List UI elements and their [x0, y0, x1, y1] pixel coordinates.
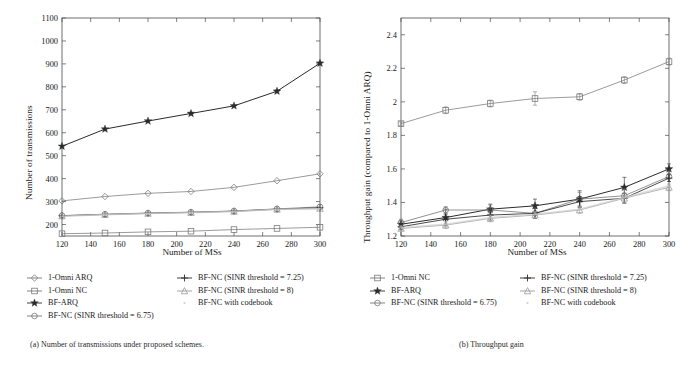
svg-text:2.2: 2.2	[387, 64, 397, 73]
legend-label: BF-NC (SINR threshold = 8)	[541, 285, 637, 298]
svg-text:300: 300	[45, 198, 58, 207]
caption-b: (b) Throughput gain	[459, 340, 524, 349]
svg-text:2.4: 2.4	[387, 31, 398, 40]
caption-a: (a) Number of transmissions under propos…	[30, 340, 204, 349]
plot-b: 1201401601802002202402602803001.21.41.61…	[349, 0, 697, 262]
dot-marker-icon	[519, 297, 537, 309]
legend-item[interactable]: BF-ARQ	[369, 285, 519, 298]
chart-a-xlabel: Number of MSs	[18, 247, 366, 257]
chart-a-svg: 1201401601802002202402602803002003004005…	[0, 0, 348, 262]
svg-text:1.2: 1.2	[387, 232, 397, 241]
svg-text:400: 400	[45, 175, 58, 184]
legend-item[interactable]: BF-NC (SINR threshold = 7.25)	[176, 272, 356, 285]
legend-a-col2: BF-NC (SINR threshold = 7.25) BF-NC (SIN…	[176, 272, 356, 310]
legend-item[interactable]: BF-NC (SINR threshold = 6.75)	[26, 310, 176, 323]
panel-a: 1201401601802002202402602803002003004005…	[0, 0, 348, 367]
star-marker-icon	[369, 285, 387, 297]
svg-text:900: 900	[45, 60, 58, 69]
legend-item[interactable]: 1-Omni ARQ	[26, 272, 176, 285]
circle-marker-icon	[26, 310, 44, 322]
svg-text:500: 500	[45, 152, 58, 161]
legend-item[interactable]: 1-Omni NC	[26, 285, 176, 298]
chart-a-ylabel: Number of transmissions	[24, 105, 34, 200]
svg-text:1100: 1100	[42, 14, 58, 23]
diamond-marker-icon	[26, 272, 44, 284]
svg-text:600: 600	[45, 129, 58, 138]
legend-a-col1: 1-Omni ARQ 1-Omni NC BF-ARQ BF-NC (SINR …	[26, 272, 176, 322]
plot-a: 1201401601802002202402602803002003004005…	[0, 0, 348, 262]
legend-label: 1-Omni NC	[391, 272, 430, 285]
circle-marker-icon	[369, 297, 387, 309]
plus-marker-icon	[176, 272, 194, 284]
legend-b-col1: 1-Omni NC BF-ARQ BF-NC (SINR threshold =…	[369, 272, 519, 310]
square-marker-icon	[26, 285, 44, 297]
star-marker-icon	[26, 297, 44, 309]
legend-label: BF-NC with codebook	[198, 297, 273, 310]
legend-item[interactable]: BF-NC (SINR threshold = 8)	[176, 285, 356, 298]
legend-item[interactable]: BF-NC (SINR threshold = 6.75)	[369, 297, 519, 310]
chart-b-ylabel: Throughput gain (compared to 1-Omni ARQ)	[362, 71, 372, 243]
triangle-marker-icon	[176, 285, 194, 297]
svg-text:1000: 1000	[41, 37, 58, 46]
svg-text:1.8: 1.8	[387, 131, 397, 140]
plus-marker-icon	[519, 272, 537, 284]
svg-text:700: 700	[45, 106, 58, 115]
legend-item[interactable]: BF-NC with codebook	[176, 297, 356, 310]
svg-text:2: 2	[393, 98, 397, 107]
legend-item[interactable]: BF-NC (SINR threshold = 7.25)	[519, 272, 697, 285]
legend-label: 1-Omni ARQ	[48, 272, 92, 285]
legend-item[interactable]: BF-NC (SINR threshold = 8)	[519, 285, 697, 298]
triangle-marker-icon	[519, 285, 537, 297]
svg-text:1.6: 1.6	[387, 165, 397, 174]
square-marker-icon	[369, 272, 387, 284]
legend-label: BF-NC with codebook	[541, 297, 616, 310]
legend-item[interactable]: BF-NC with codebook	[519, 297, 697, 310]
chart-b-svg: 1201401601802002202402602803001.21.41.61…	[349, 0, 697, 262]
legend-label: BF-ARQ	[391, 285, 421, 298]
legend-label: BF-NC (SINR threshold = 7.25)	[198, 272, 304, 285]
legend-label: BF-ARQ	[48, 297, 78, 310]
legend-label: BF-NC (SINR threshold = 6.75)	[391, 297, 497, 310]
legend-b: 1-Omni NC BF-ARQ BF-NC (SINR threshold =…	[369, 272, 697, 310]
legend-b-col2: BF-NC (SINR threshold = 7.25) BF-NC (SIN…	[519, 272, 697, 310]
legend-item[interactable]: BF-ARQ	[26, 297, 176, 310]
legend-item[interactable]: 1-Omni NC	[369, 272, 519, 285]
legend-label: BF-NC (SINR threshold = 6.75)	[48, 310, 154, 323]
panel-b: 1201401601802002202402602803001.21.41.61…	[349, 0, 697, 367]
legend-label: BF-NC (SINR threshold = 8)	[198, 285, 294, 298]
svg-text:800: 800	[45, 83, 58, 92]
svg-text:1.4: 1.4	[387, 198, 398, 207]
legend-label: BF-NC (SINR threshold = 7.25)	[541, 272, 647, 285]
legend-label: 1-Omni NC	[48, 285, 87, 298]
dot-marker-icon	[176, 297, 194, 309]
figure-container: 1201401601802002202402602803002003004005…	[0, 0, 697, 367]
legend-a: 1-Omni ARQ 1-Omni NC BF-ARQ BF-NC (SINR …	[26, 272, 374, 322]
svg-text:200: 200	[45, 221, 58, 230]
chart-b-xlabel: Number of MSs	[363, 247, 697, 257]
